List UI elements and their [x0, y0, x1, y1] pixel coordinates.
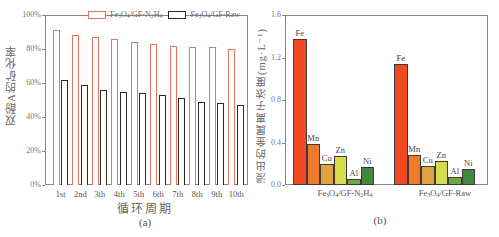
bar-raw — [217, 103, 224, 185]
bar-ni — [462, 169, 476, 185]
bar-label-fe: Fe — [389, 53, 413, 63]
x-axis-label-a: 循环周期 — [95, 199, 195, 217]
bar-raw — [159, 95, 166, 185]
y-axis-label-a: 双酚A的矿化率 — [3, 45, 19, 126]
group-label-raw: Fe3O4/GF-Raw — [395, 188, 495, 198]
bar-al — [347, 179, 361, 185]
bar-label-mn: Mn — [301, 133, 325, 143]
bar-mn — [307, 144, 321, 185]
y-tick-mark — [282, 58, 285, 59]
bar-n2h4 — [209, 47, 216, 185]
y-tick-mark — [282, 143, 285, 144]
panel-label-a: (a) — [125, 216, 165, 228]
bar-raw — [61, 80, 68, 185]
legend-a: Fe3O4/GF-N2H4 Fe3O4/GF-Raw — [88, 10, 240, 19]
group-label-n2h4: Fe3O4/GF-N2H4 — [295, 188, 395, 198]
bar-label-zn: Zn — [328, 145, 352, 155]
legend-label-raw: Fe3O4/GF-Raw — [190, 10, 240, 19]
chart-panel-a: 0%20%40%60%80%100% 1st2nd3th4th5th6th7th… — [0, 0, 250, 237]
bar-raw — [237, 105, 244, 185]
y-tick-mark — [282, 100, 285, 101]
y-tick-label: 100% — [7, 11, 41, 19]
y-tick-label: 20% — [7, 147, 41, 155]
bar-raw — [198, 102, 205, 185]
legend-label-n2h4: Fe3O4/GF-N2H4 — [110, 10, 162, 19]
bar-label-ni: Ni — [456, 158, 480, 168]
bar-fe — [293, 39, 307, 185]
bar-label-fe: Fe — [288, 28, 312, 38]
bar-raw — [81, 85, 88, 185]
bar-n2h4 — [72, 35, 79, 185]
bar-raw — [120, 92, 127, 186]
y-tick-mark — [42, 117, 45, 118]
bar-n2h4 — [131, 42, 138, 185]
bar-label-zn: Zn — [429, 150, 453, 160]
y-tick-mark — [42, 49, 45, 50]
bar-cu — [421, 166, 435, 185]
y-tick-mark — [42, 185, 45, 186]
bar-fe — [394, 64, 408, 185]
bar-cu — [320, 164, 334, 185]
bar-raw — [139, 93, 146, 185]
y-tick-label: 1.6 — [247, 11, 281, 19]
bar-raw — [100, 90, 107, 185]
bar-label-mn: Mn — [402, 144, 426, 154]
bar-n2h4 — [111, 39, 118, 185]
bar-n2h4 — [53, 30, 60, 185]
bar-n2h4 — [228, 49, 235, 185]
y-axis-label-b: 浸出的金属离子浓度(mg·L⁻¹) — [254, 28, 269, 183]
bar-raw — [178, 98, 185, 185]
bar-ni — [361, 167, 375, 185]
legend-swatch-raw — [168, 11, 186, 19]
y-tick-mark — [42, 83, 45, 84]
y-tick-label: 0% — [7, 181, 41, 189]
bar-n2h4 — [150, 44, 157, 185]
bar-n2h4 — [189, 47, 196, 185]
bar-al — [448, 177, 462, 186]
panel-label-b: (b) — [360, 214, 400, 226]
bar-n2h4 — [170, 46, 177, 185]
legend-swatch-n2h4 — [88, 11, 106, 19]
bar-label-ni: Ni — [355, 156, 379, 166]
y-tick-mark — [282, 185, 285, 186]
y-tick-mark — [282, 15, 285, 16]
chart-panel-b: 0.00.40.81.21.6 FeMnCuZnAlNiFeMnCuZnAlNi… — [250, 0, 499, 237]
y-tick-mark — [42, 151, 45, 152]
y-tick-mark — [42, 15, 45, 16]
x-tick-label: 10th — [225, 189, 247, 199]
bar-n2h4 — [92, 37, 99, 185]
